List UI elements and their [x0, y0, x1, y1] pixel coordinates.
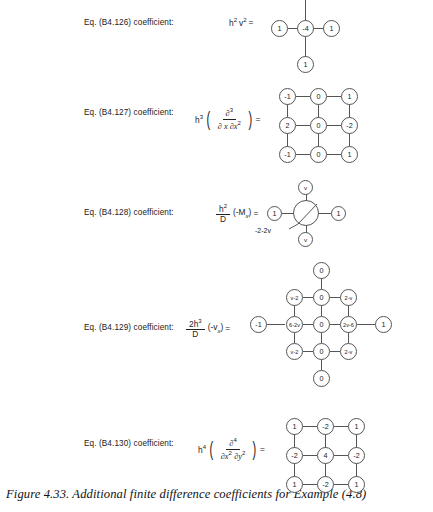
stencil-node-r2c1: 0 — [313, 316, 330, 333]
stencil-node-bottom: 1 — [297, 56, 314, 73]
stencil-b4-130: 1 -2 1 -2 4 -2 1 -2 1 — [286, 418, 378, 494]
edge-r2c0c1 — [296, 154, 310, 155]
stencil-node-left: 1 — [267, 206, 282, 221]
edge-r2-R — [330, 324, 340, 325]
edge-c2r1r2 — [349, 133, 350, 147]
edge-r1-R — [330, 297, 340, 298]
derivative-fraction: ∂4 ∂x2 ∂y2 — [218, 437, 249, 461]
stencil-node-far-left: -1 — [250, 316, 267, 333]
edge-r0c0c1 — [303, 426, 317, 427]
edge-col-top2 — [321, 305, 322, 316]
stencil-node-r1c1: 0 — [310, 117, 327, 134]
edge-c0r1r2 — [287, 133, 288, 147]
equation-expression-b4-127: h3 ( ∂3 ∂ x ∂x2 ) = — [195, 107, 261, 131]
h2-over-D-fraction: h2 D — [216, 203, 230, 223]
stencil-node-r0c0: 1 — [286, 418, 303, 435]
edge-c1r1r2 — [325, 463, 326, 477]
expr-h: h4 — [198, 444, 206, 455]
stencil-node-r3c1: 0 — [313, 343, 330, 360]
edge-colR-bot — [348, 332, 349, 343]
edge-r3-L — [303, 351, 313, 352]
edge-c2r0r1 — [349, 104, 350, 118]
stencil-node-r1c0: 2 — [279, 117, 296, 134]
edge-r1c1c2 — [327, 125, 341, 126]
expr-equals: = — [225, 323, 230, 333]
fraction-numerator: ∂3 — [223, 107, 236, 120]
stencil-node-bottom: 0 — [313, 370, 330, 387]
stencil-node-r0c2: 1 — [341, 88, 358, 105]
expr-equals: = — [256, 114, 261, 124]
stencil-node-r0c2: 1 — [348, 418, 365, 435]
equation-expression-b4-129: 2h3 D (-vx) = — [185, 318, 230, 338]
stencil-node-r1c1: 0 — [313, 289, 330, 306]
stencil-b4-127: -1 0 1 2 0 -2 -1 0 1 — [279, 88, 371, 164]
fraction-denominator: D — [189, 330, 201, 339]
stencil-node-r2c2: 1 — [341, 146, 358, 163]
stencil-node-r2c0: 1 — [286, 476, 303, 493]
stencil-node-right: 1 — [331, 206, 346, 221]
edge-r2-farR — [357, 324, 375, 325]
edge-right — [319, 213, 331, 214]
stencil-node-r2c0: 6-2v — [286, 316, 303, 333]
edge-c1r1r2 — [318, 133, 319, 147]
stencil-node-r0c1: -2 — [317, 418, 334, 435]
stencil-node-r0c1: 0 — [310, 88, 327, 105]
fraction-numerator: 2h3 — [186, 318, 205, 330]
expr-equals: = — [260, 444, 265, 454]
figure-caption: Figure 4.33. Additional finite differenc… — [6, 487, 430, 502]
fraction-denominator: D — [217, 215, 229, 224]
shear-term: (-vx) — [208, 322, 224, 334]
expr-equals: = — [249, 17, 254, 27]
stencil-node-far-right: 1 — [375, 316, 392, 333]
stencil-node-left: 1 — [271, 20, 288, 37]
edge-c0r0r1 — [287, 104, 288, 118]
edge-c0r0r1 — [294, 434, 295, 448]
edge-r1-L — [303, 297, 313, 298]
stencil-node-r2c1: -2 — [317, 476, 334, 493]
edge-r2c0c1 — [303, 484, 317, 485]
edge-r3-R — [330, 351, 340, 352]
paren-open-icon: ( — [210, 442, 214, 456]
paren-open-icon: ( — [207, 112, 211, 126]
stencil-node-r2c2: 1 — [348, 476, 365, 493]
stencil-b4-128: v 1 1 v -2-2v — [258, 178, 373, 248]
stencil-node-r1c2: -2 — [341, 117, 358, 134]
edge-c0r1r2 — [294, 463, 295, 477]
expr-h: h3 — [195, 114, 203, 125]
expr-h: h2 — [229, 17, 237, 28]
edge-c1r0r1 — [325, 434, 326, 448]
fraction-numerator: ∂4 — [226, 437, 239, 450]
expr-v: v2 — [239, 17, 247, 28]
equation-label-b4-126: Eq. (B4.126) coefficient: — [84, 18, 174, 27]
fraction-denominator: ∂ x ∂x2 — [215, 120, 244, 132]
derivative-fraction: ∂3 ∂ x ∂x2 — [215, 107, 244, 131]
edge-r2-farL — [267, 324, 285, 325]
stencil-b4-126: 1 1 -4 1 1 — [262, 0, 372, 74]
equation-label-b4-128: Eq. (B4.128) coefficient: — [84, 208, 174, 217]
stencil-node-r2c1: 0 — [310, 146, 327, 163]
edge-r0c1c2 — [334, 426, 348, 427]
edge-r1c1c2 — [334, 455, 348, 456]
edge-r0c1c2 — [327, 96, 341, 97]
equation-expression-b4-128: h2 D (-Mx) = — [215, 203, 258, 223]
stencil-b4-129: 0 v-2 0 2-v -1 6-2v 0 2v-6 1 v-2 0 2-v 0 — [241, 260, 401, 388]
edge-r1c0c1 — [303, 455, 317, 456]
stencil-node-top: 0 — [313, 262, 330, 279]
stencil-node-r2c0: -1 — [279, 146, 296, 163]
stencil-node-bottom: v — [298, 232, 313, 247]
edge-r0c0c1 — [296, 96, 310, 97]
stencil-node-center: -4 — [297, 20, 314, 37]
stencil-node-r1c0: v-2 — [286, 289, 303, 306]
edge-colR-top — [348, 305, 349, 316]
moment-term: (-Mx) — [233, 207, 251, 219]
edge-col-bot1 — [321, 332, 322, 343]
paren-close-icon: ) — [253, 442, 257, 456]
stencil-node-right: 1 — [323, 20, 340, 37]
2h3-over-D-fraction: 2h3 D — [186, 318, 205, 338]
edge-colL-top — [294, 305, 295, 316]
paren-close-icon: ) — [248, 112, 252, 126]
edge-r2c1c2 — [327, 154, 341, 155]
edge-r2-L — [303, 324, 313, 325]
stencil-node-top: v — [298, 180, 313, 195]
equation-label-b4-127: Eq. (B4.127) coefficient: — [84, 108, 174, 117]
